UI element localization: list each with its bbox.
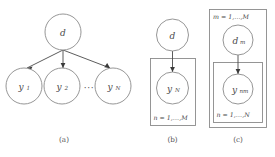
caption-b: (b) bbox=[167, 135, 177, 144]
node-yN-b-label: y bbox=[166, 84, 173, 94]
node-dm-label: d bbox=[233, 36, 239, 46]
node-yN-b bbox=[157, 72, 189, 104]
plate-m-c-label: m = 1,…,M bbox=[213, 13, 250, 20]
node-yN-a bbox=[95, 68, 131, 104]
node-ynm-subscript: nm bbox=[240, 88, 249, 94]
node-d-a-label: d bbox=[60, 28, 66, 38]
node-dm-subscript: m bbox=[240, 39, 245, 45]
panel-b: n = 1,…,M d y N (b) bbox=[151, 19, 196, 144]
panel-c: m = 1,…,M n = 1,…,N d m y nm (c) bbox=[210, 10, 267, 144]
plate-n-b-label: n = 1,…,M bbox=[154, 114, 189, 121]
caption-c: (c) bbox=[233, 135, 243, 144]
plate-notation-figure: d y 1 y 2 ··· y N (a) n = 1,…,M bbox=[0, 0, 275, 157]
arrowhead-d-to-yN-b bbox=[170, 67, 175, 72]
node-y1-subscript: 1 bbox=[27, 85, 31, 91]
caption-a: (a) bbox=[59, 135, 69, 144]
ellipsis-between-nodes: ··· bbox=[84, 83, 94, 93]
node-y2-subscript: 2 bbox=[64, 85, 69, 91]
edge-d-to-y1 bbox=[27, 50, 63, 68]
arrowhead-dm-to-ynm bbox=[236, 69, 241, 74]
diagram-canvas: d y 1 y 2 ··· y N (a) n = 1,…,M bbox=[0, 0, 275, 157]
node-yN-a-label: y bbox=[106, 82, 113, 92]
arrowhead-d-to-y2 bbox=[61, 63, 66, 68]
node-y2-label: y bbox=[55, 82, 62, 92]
arrowhead-d-to-yN bbox=[104, 63, 110, 68]
node-y1-label: y bbox=[17, 82, 24, 92]
node-y1 bbox=[6, 68, 42, 104]
node-ynm bbox=[223, 74, 253, 104]
node-ynm-label: y bbox=[231, 85, 238, 95]
plate-n-c-label: n = 1,…,N bbox=[217, 111, 251, 118]
edge-d-to-yN bbox=[63, 50, 110, 68]
node-d-b-label: d bbox=[170, 31, 176, 41]
node-y2 bbox=[44, 68, 80, 104]
panel-a: d y 1 y 2 ··· y N (a) bbox=[6, 14, 131, 144]
